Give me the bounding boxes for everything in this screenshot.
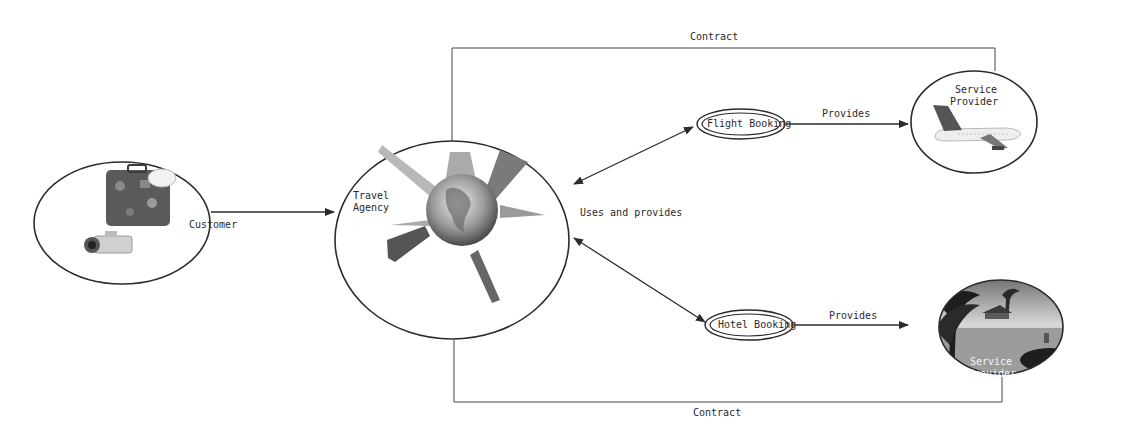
agency-flight-arrow [574,127,693,184]
hotel-provider-label-line2: Provider [968,368,1016,380]
travel-agency-node [335,141,569,339]
luggage-icon [106,165,176,226]
agency-hotel-arrow [574,238,705,322]
flight-provider-label-line1: Service [955,84,997,96]
hotel-provider-label-line1: Service [970,356,1012,368]
contract-label-top: Contract [690,31,738,43]
travel-agency-label-line1: Travel [353,190,389,202]
flight-booking-label[interactable]: Flight Booking [707,118,791,130]
contract-connector-bottom [454,340,1002,402]
uses-and-provides-label: Uses and provides [580,207,682,219]
travel-agency-diagram [0,0,1127,438]
contract-label-bottom: Contract [693,407,741,419]
hotel-provides-label: Provides [829,310,877,322]
flight-provider-label-line2: Provider [950,96,998,108]
customer-label: Customer [189,219,237,231]
hotel-booking-label[interactable]: Hotel Booking [718,319,796,331]
customer-node [34,162,210,284]
flight-provides-label: Provides [822,108,870,120]
travel-agency-label-line2: Agency [353,202,389,214]
